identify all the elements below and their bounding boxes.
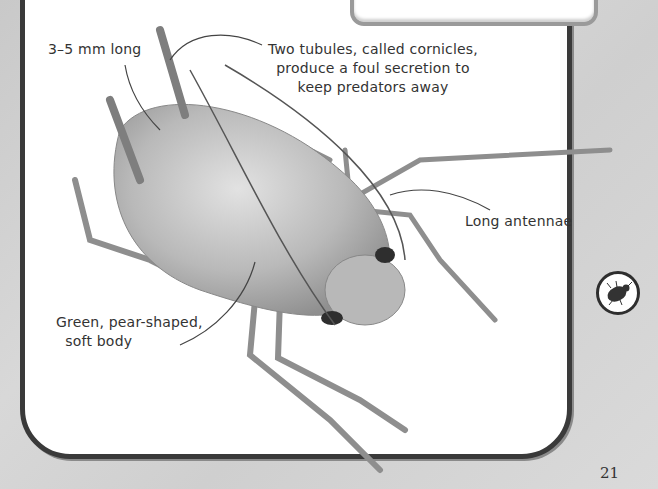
label-antennae: Long antennae bbox=[465, 212, 572, 231]
label-size: 3–5 mm long bbox=[48, 40, 141, 59]
label-cornicles: Two tubules, called cornicles, produce a… bbox=[268, 40, 478, 97]
page-number: 21 bbox=[600, 464, 619, 482]
topic-badge bbox=[596, 271, 640, 315]
beetle-icon bbox=[603, 278, 633, 308]
label-body: Green, pear-shaped, soft body bbox=[56, 313, 203, 351]
